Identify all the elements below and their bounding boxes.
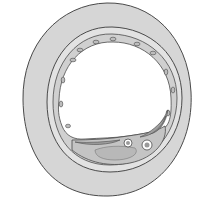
foam-cell-2 [142,140,152,150]
foam-cell-1 [124,139,132,147]
artery-diagram [0,0,208,215]
